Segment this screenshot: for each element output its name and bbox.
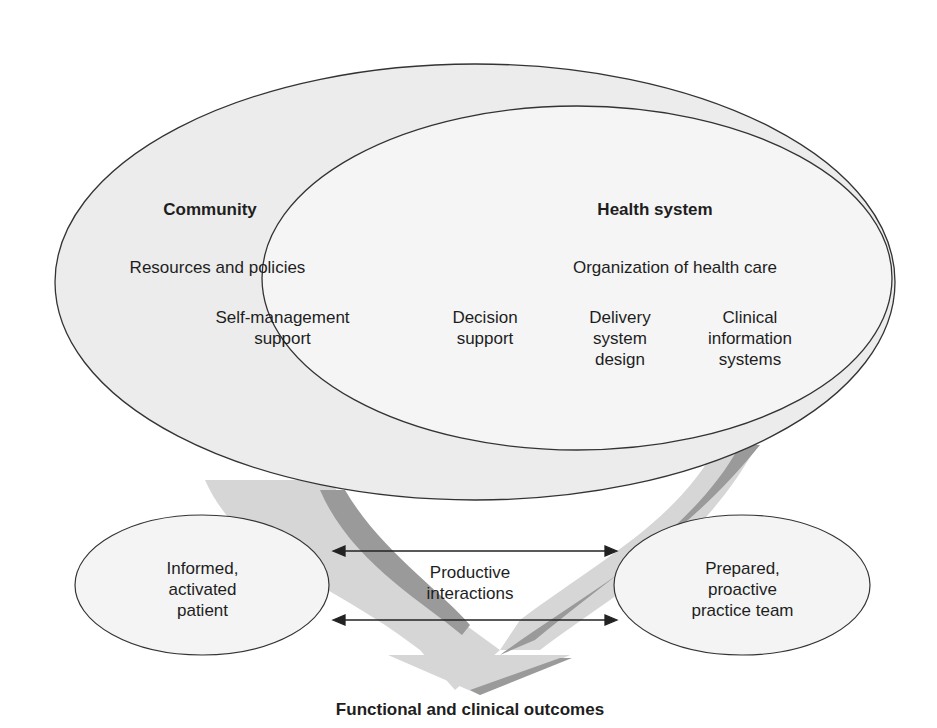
health-system-heading: Health system <box>570 199 740 220</box>
clinical-information-systems-label: Clinical information systems <box>685 307 815 370</box>
outcomes-label: Functional and clinical outcomes <box>295 699 645 720</box>
team-label: Prepared, proactive practice team <box>665 558 820 621</box>
productive-interactions-label: Productive interactions <box>400 562 540 604</box>
decision-support-label: Decision support <box>430 307 540 349</box>
patient-label: Informed, activated patient <box>130 558 275 621</box>
delivery-system-design-label: Delivery system design <box>565 307 675 370</box>
health-system-ellipse <box>262 106 892 450</box>
community-subheading: Resources and policies <box>100 257 335 278</box>
self-management-support-label: Self-management support <box>190 307 375 349</box>
community-heading: Community <box>150 199 270 220</box>
health-system-subheading: Organization of health care <box>535 257 815 278</box>
